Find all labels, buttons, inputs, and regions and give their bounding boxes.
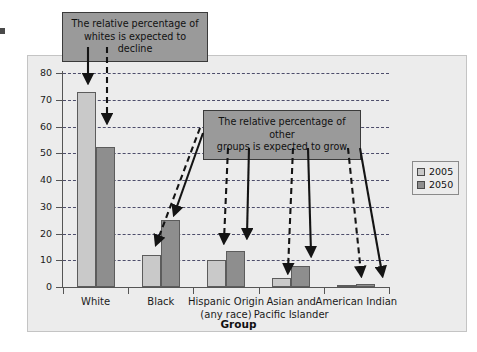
arrow-asian-2050 (308, 148, 311, 253)
arrow-hispanic-2050 (247, 148, 249, 235)
arrow-amerindian-2005 (348, 148, 361, 273)
arrow-asian-2005 (288, 148, 293, 270)
arrow-amerindian-2050 (360, 148, 382, 273)
annotation-arrows (0, 0, 477, 352)
chart-figure: 01020304050607080 WhiteBlackHispanic Ori… (0, 0, 477, 352)
arrow-black-2050 (175, 133, 203, 212)
arrow-black-2005 (157, 128, 200, 242)
arrow-hispanic-2005 (224, 148, 228, 240)
